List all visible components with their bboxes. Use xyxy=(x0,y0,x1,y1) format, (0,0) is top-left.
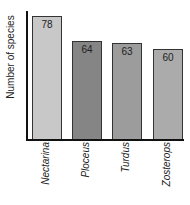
bar-ploceus: 64 xyxy=(72,41,102,140)
y-axis-label: Number of species xyxy=(5,12,19,102)
bar-value-label: 78 xyxy=(33,19,61,30)
bar-value-label: 64 xyxy=(73,44,101,55)
x-tick-label: Ploceus xyxy=(80,142,94,202)
x-tick-label: Zosterops xyxy=(161,142,175,202)
x-axis-line xyxy=(26,139,184,141)
bar-value-label: 63 xyxy=(113,46,141,57)
x-tick-label: Nectarina xyxy=(40,142,54,202)
y-axis-line xyxy=(26,11,28,140)
bar-zosterops: 60 xyxy=(153,49,183,140)
x-tick-label: Turdus xyxy=(120,142,134,202)
bar-value-label: 60 xyxy=(154,52,182,63)
bar-nectarina: 78 xyxy=(32,16,62,140)
bar-turdus: 63 xyxy=(112,43,142,140)
